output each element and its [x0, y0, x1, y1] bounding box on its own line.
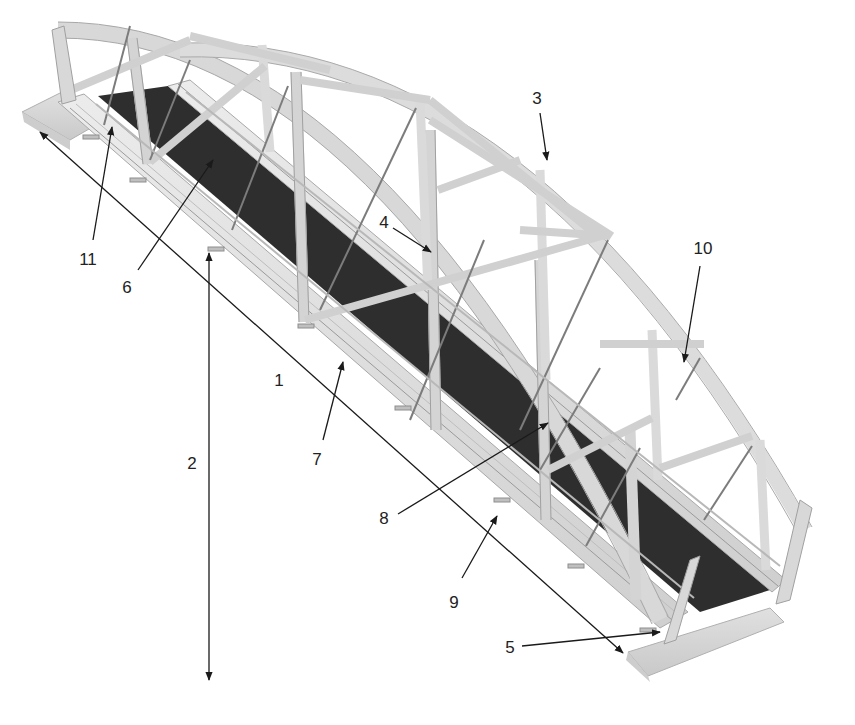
callout-label-7: 7 [312, 451, 321, 468]
leader-line-11 [93, 127, 112, 240]
callout-label-5: 5 [505, 639, 514, 656]
callout-label-6: 6 [122, 279, 131, 296]
leader-line-5 [522, 632, 660, 646]
callout-label-4: 4 [379, 214, 388, 231]
leader-line-7 [323, 362, 343, 440]
callout-label-2: 2 [187, 455, 196, 472]
callout-label-10: 10 [694, 240, 713, 257]
callout-label-3: 3 [532, 90, 541, 107]
callout-label-1: 1 [274, 372, 283, 389]
callout-label-8: 8 [379, 510, 388, 527]
bridge-illustration [0, 0, 855, 725]
callout-label-9: 9 [449, 594, 458, 611]
bridge-diagram: 1234567891011 [0, 0, 855, 725]
leader-line-3 [540, 113, 547, 160]
callout-label-11: 11 [79, 251, 97, 268]
